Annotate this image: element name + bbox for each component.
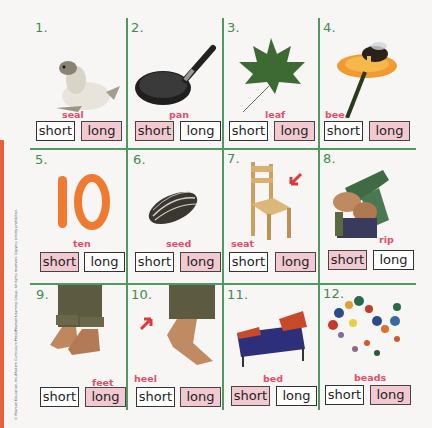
short-option-selected[interactable]: short bbox=[40, 252, 79, 272]
item-word: seal bbox=[62, 109, 84, 120]
bee-on-flower-icon bbox=[325, 38, 411, 118]
item-word: pan bbox=[169, 109, 189, 120]
long-option[interactable]: long bbox=[180, 121, 221, 141]
short-option[interactable]: short bbox=[135, 252, 174, 272]
item-number: 6. bbox=[133, 152, 146, 167]
long-option-selected[interactable]: long bbox=[180, 252, 221, 272]
short-option[interactable]: short bbox=[229, 121, 268, 141]
long-option-selected[interactable]: long bbox=[275, 252, 316, 272]
item-cell-6: 6. seed short long bbox=[127, 150, 222, 283]
number-ten-icon bbox=[54, 172, 114, 232]
item-cell-5: 5. ten short long bbox=[30, 150, 126, 283]
string-of-beads-icon bbox=[325, 295, 405, 365]
item-cell-2: 2. pan short long bbox=[127, 18, 222, 148]
item-cell-8: 8. rip short long bbox=[319, 150, 416, 283]
item-cell-12: 12. beads short long bbox=[319, 285, 416, 415]
item-word: bee bbox=[325, 109, 345, 120]
copyright-notice: © Pearson Education, Inc./Modern Curricu… bbox=[14, 150, 18, 420]
long-option-selected[interactable]: long bbox=[85, 387, 126, 407]
item-cell-3: 3. leaf short long bbox=[223, 18, 318, 148]
bare-feet-icon bbox=[48, 285, 118, 361]
short-option[interactable]: short bbox=[229, 252, 268, 272]
wooden-chair-icon bbox=[245, 158, 311, 242]
item-number: 4. bbox=[323, 20, 336, 35]
item-cell-11: 11. bed short long bbox=[223, 285, 318, 415]
item-number: 2. bbox=[131, 20, 144, 35]
item-number: 5. bbox=[35, 152, 48, 167]
item-number: 11. bbox=[227, 287, 248, 302]
item-cell-1: 1. seal short long bbox=[30, 18, 126, 148]
short-option-selected[interactable]: short bbox=[328, 250, 367, 270]
short-option[interactable]: short bbox=[40, 387, 79, 407]
maple-leaf-icon bbox=[231, 32, 311, 112]
arrow-icon bbox=[141, 319, 151, 329]
frying-pan-icon bbox=[133, 42, 219, 112]
short-option-selected[interactable]: short bbox=[135, 121, 174, 141]
item-word: ten bbox=[73, 238, 91, 249]
item-word: beads bbox=[354, 372, 386, 383]
page-edge-stripe bbox=[0, 140, 4, 428]
long-option-selected[interactable]: long bbox=[81, 121, 122, 141]
item-word: seat bbox=[231, 238, 254, 249]
long-option[interactable]: long bbox=[276, 386, 317, 406]
seal-icon bbox=[38, 46, 122, 118]
item-cell-4: 4. bee short long bbox=[319, 18, 416, 148]
long-option-selected[interactable]: long bbox=[370, 385, 411, 405]
long-option-selected[interactable]: long bbox=[369, 121, 410, 141]
item-number: 8. bbox=[323, 151, 336, 166]
arrow-icon bbox=[291, 174, 301, 184]
item-word: rip bbox=[379, 234, 394, 245]
foot-heel-icon bbox=[133, 285, 219, 369]
short-option[interactable]: short bbox=[325, 385, 364, 405]
short-option[interactable]: short bbox=[136, 387, 175, 407]
item-word: leaf bbox=[265, 109, 285, 120]
item-word: heel bbox=[134, 373, 157, 384]
item-word: bed bbox=[263, 373, 283, 384]
short-option-selected[interactable]: short bbox=[231, 386, 270, 406]
item-word: seed bbox=[166, 238, 191, 249]
long-option[interactable]: long bbox=[373, 250, 414, 270]
long-option-selected[interactable]: long bbox=[274, 121, 315, 141]
item-number: 1. bbox=[35, 20, 48, 35]
short-option[interactable]: short bbox=[36, 121, 75, 141]
item-cell-10: 10. heel short long bbox=[127, 285, 222, 415]
item-number: 9. bbox=[36, 287, 49, 302]
sunflower-seed-icon bbox=[143, 186, 203, 230]
long-option[interactable]: long bbox=[84, 252, 125, 272]
bed-icon bbox=[231, 305, 311, 367]
item-cell-9: 9. feet short long bbox=[30, 285, 126, 415]
long-option-selected[interactable]: long bbox=[180, 387, 221, 407]
short-option[interactable]: short bbox=[324, 121, 363, 141]
item-cell-7: 7. seat short long bbox=[223, 150, 318, 283]
item-number: 7. bbox=[227, 151, 240, 166]
